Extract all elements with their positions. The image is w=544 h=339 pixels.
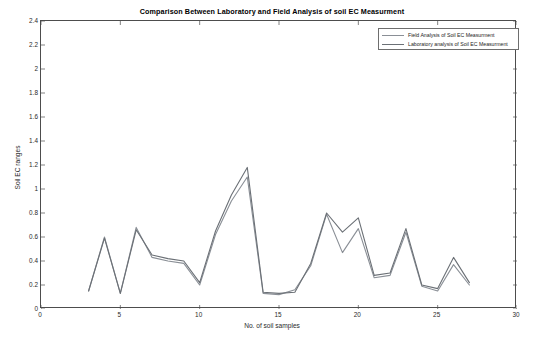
chart-figure: Comparison Between Laboratory and Field …	[0, 0, 544, 339]
y-tick-label: 0.4	[0, 257, 38, 264]
y-tick-label: 0.6	[0, 233, 38, 240]
y-tick-label: 0	[0, 305, 38, 312]
legend-item-label: Field Analysis of Soil EC Measurment	[408, 31, 495, 40]
y-tick-label: 1.8	[0, 89, 38, 96]
y-tick-label: 2.4	[0, 17, 38, 24]
y-tick-label: 2	[0, 65, 38, 72]
series-line-1	[89, 167, 470, 293]
series-line-0	[89, 177, 470, 295]
plot-svg	[41, 21, 517, 309]
y-tick-label: 0.2	[0, 281, 38, 288]
chart-title: Comparison Between Laboratory and Field …	[0, 7, 544, 16]
y-tick-label: 2.2	[0, 41, 38, 48]
x-tick-label: 10	[195, 311, 202, 318]
chart-legend: Field Analysis of Soil EC MeasurmentLabo…	[378, 28, 519, 50]
x-tick-label: 0	[38, 311, 42, 318]
data-series-group	[89, 167, 470, 294]
legend-item-label: Laboratory analysis of Soil EC Measurmen…	[408, 40, 508, 49]
x-tick-label: 30	[512, 311, 519, 318]
x-tick-label: 25	[433, 311, 440, 318]
legend-line-swatch-icon	[382, 35, 404, 36]
x-tick-label: 5	[118, 311, 122, 318]
x-tick-label: 15	[274, 311, 281, 318]
y-axis-label: Soil EC ranges	[14, 108, 21, 228]
legend-line-swatch-icon	[382, 44, 404, 45]
plot-area	[40, 20, 516, 308]
legend-item[interactable]: Laboratory analysis of Soil EC Measurmen…	[382, 40, 515, 49]
legend-item[interactable]: Field Analysis of Soil EC Measurment	[382, 31, 515, 40]
x-tick-label: 20	[354, 311, 361, 318]
x-axis-label: No. of soil samples	[0, 322, 544, 329]
